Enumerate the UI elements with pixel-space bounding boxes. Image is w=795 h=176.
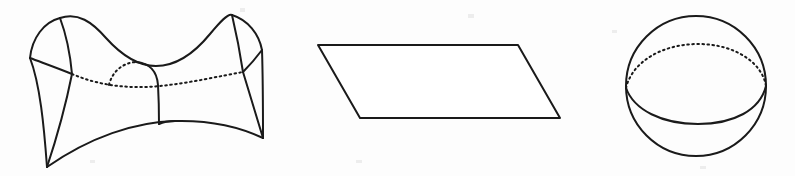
saddle-right-flap-inner-edge	[232, 15, 243, 72]
sphere-equator-back-half	[626, 44, 766, 88]
saddle-surface-figure	[0, 0, 795, 176]
curvature-figure-strip	[0, 0, 795, 176]
scan-speck	[90, 160, 95, 163]
scan-speck	[700, 166, 706, 169]
saddle-right-lower-panel-edge	[262, 50, 263, 138]
saddle-surface	[30, 15, 263, 167]
saddle-left-lower-panel-edge	[30, 58, 47, 167]
saddle-hidden-neck-arc	[109, 62, 136, 85]
sphere-figure	[626, 16, 766, 156]
saddle-left-flap-base-edge	[30, 58, 72, 74]
saddle-left-flap-inner-edge	[60, 18, 72, 74]
sphere-equator-front-half	[626, 86, 766, 124]
saddle-neck-front-meridian	[136, 62, 159, 124]
scan-speck	[612, 30, 617, 33]
scan-speck	[240, 8, 245, 12]
saddle-right-silhouette-edge	[243, 72, 263, 138]
saddle-top-rim	[60, 15, 232, 66]
saddle-bottom-front-rim	[47, 121, 263, 167]
scan-speck	[356, 160, 362, 163]
saddle-right-flap-base-edge	[243, 50, 262, 72]
saddle-left-flap-outer-edge	[30, 18, 60, 58]
scan-speck	[468, 14, 474, 18]
plane-parallelogram	[318, 45, 560, 118]
sphere-outline-circle	[626, 16, 766, 156]
